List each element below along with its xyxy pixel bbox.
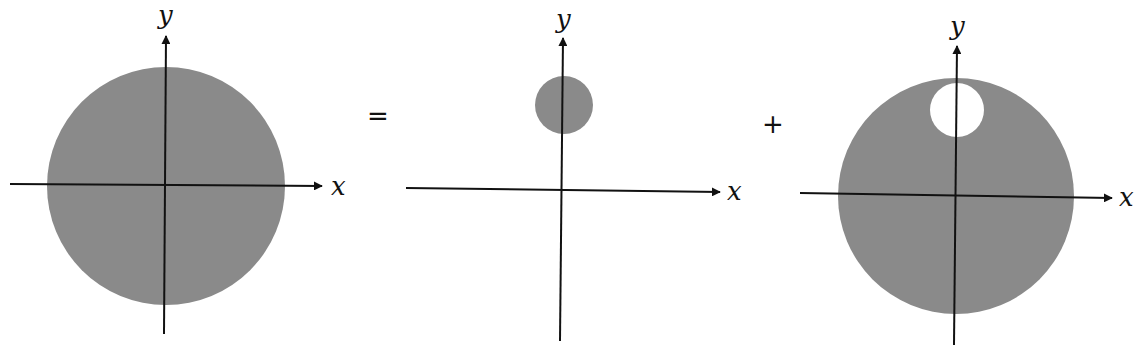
diagram-canvas: y x = y x + y x <box>0 0 1142 351</box>
x-axis-label: x <box>727 176 742 206</box>
panel-full-disk: y x <box>10 0 346 334</box>
x-axis <box>406 188 720 192</box>
equals-sign: = <box>367 101 389 131</box>
y-axis-label: y <box>157 0 173 30</box>
panel-disk-with-hole: y x <box>800 11 1134 345</box>
x-axis-label: x <box>331 171 346 201</box>
small-disk-shape <box>535 76 593 134</box>
plus-sign: + <box>762 109 784 139</box>
x-axis-label: x <box>1119 182 1134 212</box>
panel-small-disk: y x <box>406 4 742 341</box>
y-axis-label: y <box>555 4 571 34</box>
y-axis-label: y <box>949 11 965 41</box>
